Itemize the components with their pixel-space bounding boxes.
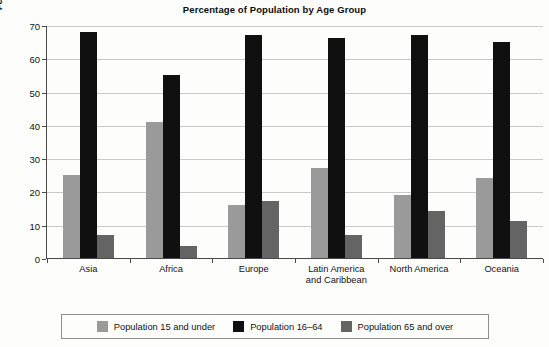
bar[interactable] (345, 235, 362, 258)
x-tick-mark (212, 259, 213, 263)
bar[interactable] (245, 35, 262, 258)
bar[interactable] (476, 178, 493, 258)
y-tick-mark (42, 126, 46, 127)
bar[interactable] (428, 211, 445, 258)
y-tick-mark (42, 226, 46, 227)
y-tick-mark (42, 26, 46, 27)
bar[interactable] (394, 195, 411, 258)
bar-groups (47, 26, 543, 258)
bar-group (47, 26, 130, 258)
y-tick-label: 10 (29, 220, 40, 231)
y-tick-mark (42, 59, 46, 60)
x-axis-label: Asia (47, 264, 130, 286)
legend-item[interactable]: Population 16–64 (233, 321, 322, 332)
y-tick-mark (42, 259, 46, 260)
legend-swatch-icon (233, 321, 244, 332)
bar[interactable] (493, 42, 510, 258)
bar[interactable] (228, 205, 245, 258)
y-tick-mark (42, 192, 46, 193)
bar[interactable] (163, 75, 180, 258)
bar-group (378, 26, 461, 258)
y-tick-label: 0 (35, 254, 40, 265)
x-tick-mark (130, 259, 131, 263)
bar[interactable] (180, 246, 197, 258)
bar-group (130, 26, 213, 258)
legend-item[interactable]: Population 65 and over (341, 321, 454, 332)
x-tick-mark (47, 259, 48, 263)
y-tick-label: 20 (29, 187, 40, 198)
legend-swatch-icon (341, 321, 352, 332)
y-tick-label: 50 (29, 87, 40, 98)
bar[interactable] (411, 35, 428, 258)
plot-area: 010203040506070 (46, 26, 543, 259)
y-tick-mark (42, 159, 46, 160)
x-axis-category-labels: AsiaAfricaEuropeLatin Americaand Caribbe… (47, 264, 543, 286)
x-axis-label: Africa (130, 264, 213, 286)
legend-label: Population 65 and over (358, 322, 454, 332)
x-axis-label: Europe (212, 264, 295, 286)
bar-group (212, 26, 295, 258)
x-tick-mark (378, 259, 379, 263)
bar[interactable] (63, 175, 80, 258)
x-axis-label: North America (378, 264, 461, 286)
chart-legend: Population 15 and underPopulation 16–64P… (61, 314, 489, 339)
legend-label: Population 16–64 (250, 322, 322, 332)
bar[interactable] (328, 38, 345, 258)
y-tick-mark (42, 93, 46, 94)
x-tick-mark (543, 259, 544, 263)
bar[interactable] (262, 201, 279, 258)
x-tick-mark (460, 259, 461, 263)
legend-label: Population 15 and under (114, 322, 215, 332)
y-tick-label: 60 (29, 54, 40, 65)
y-tick-label: 40 (29, 120, 40, 131)
chart-title: Percentage of Population by Age Group (0, 4, 549, 15)
y-axis-title: Percentage of Population (0, 0, 4, 42)
bar-group (460, 26, 543, 258)
x-tick-mark (295, 259, 296, 263)
bar[interactable] (510, 221, 527, 258)
x-axis-label: Latin Americaand Caribbean (295, 264, 378, 286)
y-tick-label: 30 (29, 154, 40, 165)
y-tick-label: 70 (29, 21, 40, 32)
bar[interactable] (311, 168, 328, 258)
bar[interactable] (80, 32, 97, 258)
bar-group (295, 26, 378, 258)
legend-item[interactable]: Population 15 and under (97, 321, 215, 332)
bar-chart: Percentage of Population by Age Group Pe… (0, 0, 549, 347)
x-axis-label: Oceania (460, 264, 543, 286)
bar[interactable] (97, 235, 114, 258)
legend-swatch-icon (97, 321, 108, 332)
bar[interactable] (146, 122, 163, 258)
